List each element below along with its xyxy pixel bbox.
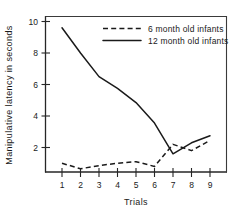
x-ticklabel-6: 6 [152,180,157,190]
legend-label-6-month: 6 month old infants [148,24,224,34]
line-chart-canvas: 10 8 6 4 2 1 2 3 4 5 6 7 8 9 [0,0,243,212]
x-ticklabel-4: 4 [115,180,120,190]
x-ticklabel-9: 9 [208,180,213,190]
legend: 6 month old infants 12 month old infants [103,24,229,46]
y-ticklabel-6: 6 [33,80,38,90]
x-ticklabel-5: 5 [134,180,139,190]
chart-figure: 10 8 6 4 2 1 2 3 4 5 6 7 8 9 [0,0,243,212]
y-ticklabel-4: 4 [33,111,38,121]
x-ticklabel-1: 1 [60,180,65,190]
x-axis-ticklabels: 1 2 3 4 5 6 7 8 9 [60,180,213,190]
y-ticklabel-2: 2 [33,143,38,153]
series-line-12-month [62,28,210,154]
x-ticklabel-7: 7 [171,180,176,190]
y-ticklabel-8: 8 [33,48,38,58]
x-ticklabel-2: 2 [78,180,83,190]
y-axis-label: Manipulative latency in seconds [4,25,14,165]
x-ticklabel-8: 8 [189,180,194,190]
y-ticklabel-10: 10 [29,17,39,27]
data-series-group [62,28,210,169]
legend-label-12-month: 12 month old infants [148,36,229,46]
y-axis-ticklabels: 10 8 6 4 2 [29,17,39,153]
x-ticklabel-3: 3 [97,180,102,190]
x-axis-label: Trials [124,197,148,207]
